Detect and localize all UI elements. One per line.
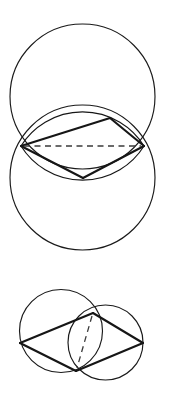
edge-right-to-lower-intersection (76, 343, 143, 371)
upper-figure-group (10, 24, 155, 250)
figure-canvas (0, 0, 171, 395)
large-left-circle (20, 290, 103, 373)
lens-lower-arc (21, 146, 144, 180)
edge-upper-intersection-to-right (93, 313, 143, 343)
edge-left-to-upper-vertex (21, 118, 110, 146)
edge-left-to-upper-intersection (20, 313, 93, 343)
upper-circle (10, 24, 155, 169)
geometry-diagram (0, 0, 171, 395)
lower-figure-group (20, 290, 144, 381)
